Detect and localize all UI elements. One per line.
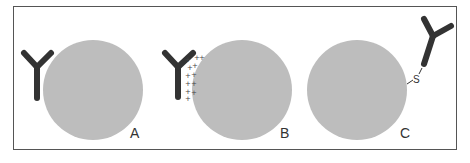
- panel-label-b: B: [280, 125, 289, 141]
- diagram-canvas: A + + + + + + + + + + + + B S: [0, 0, 470, 163]
- svg-text:+: +: [191, 89, 197, 97]
- svg-text:+: +: [191, 80, 197, 88]
- panel-a: A: [24, 40, 143, 141]
- antibody-c-icon: [424, 19, 451, 64]
- panel-c: S C: [307, 19, 451, 141]
- svg-text:+: +: [191, 71, 197, 79]
- svg-text:+: +: [199, 54, 205, 62]
- panel-b: + + + + + + + + + + + + B: [165, 40, 292, 141]
- svg-text:+: +: [185, 56, 191, 64]
- panel-label-c: C: [400, 125, 410, 141]
- particle-a: [43, 40, 143, 140]
- particle-b: [192, 40, 292, 140]
- panel-label-a: A: [130, 125, 140, 141]
- particle-c: [307, 40, 407, 140]
- svg-text:+: +: [192, 62, 198, 70]
- sulfur-label: S: [413, 74, 420, 85]
